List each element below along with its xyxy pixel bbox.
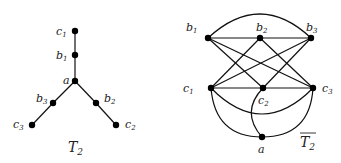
tree-t2: c1 b1 a b3 c3 b2 c2 T2 [13,25,136,157]
node-b2 [93,100,99,106]
caption-complement-t2: T2 [300,134,315,152]
label-b3: b3 [306,21,318,35]
edge-b2-c1 [211,38,260,88]
label-b1: b1 [56,49,68,63]
label-c3: c3 [322,82,333,96]
node-a [72,78,78,84]
node-b1 [72,52,78,58]
node-c2 [113,122,119,128]
edge-a-b2 [75,81,96,103]
label-c1: c1 [56,25,67,39]
label-b2: b2 [104,92,116,106]
node-a [259,134,265,140]
node-b1 [205,35,211,41]
node-b3 [308,35,314,41]
label-b1: b1 [186,21,198,35]
label-c3: c3 [13,118,24,132]
label-a: a [63,74,70,87]
label-c1: c1 [183,82,194,96]
label-a: a [258,143,265,156]
node-c3 [310,85,316,91]
complement-graph: b1 b2 b3 c1 c2 c3 a T2 [183,14,333,156]
graph-figure: c1 b1 a b3 c3 b2 c2 T2 b1 b2 b3 c1 c2 [0,0,341,163]
caption-t2: T2 [68,139,83,157]
node-c3 [29,122,35,128]
node-b3 [50,100,56,106]
node-c1 [72,28,78,34]
label-b2: b2 [256,21,268,35]
node-c2 [260,85,266,91]
label-b3: b3 [36,92,48,106]
node-b2 [257,35,263,41]
node-c1 [208,85,214,91]
edge-b3-c2 [263,38,311,88]
label-c2: c2 [125,118,136,132]
label-c2: c2 [258,94,269,108]
edge-b3-c3 [32,103,53,125]
edge-b2-c2 [96,103,116,125]
